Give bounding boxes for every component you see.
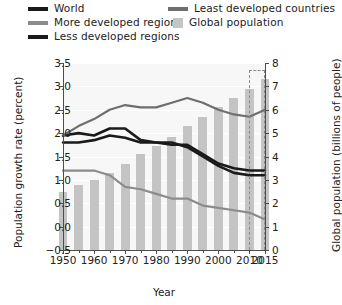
y-tick-label-left: 1.0	[54, 174, 71, 186]
y-tick-label-right: 2	[272, 197, 279, 209]
y-tick-label-left: 3.0	[54, 80, 71, 92]
projection-annotation	[63, 63, 265, 250]
legend-swatch-line-icon	[28, 35, 48, 39]
y-tick-label-left: 2.5	[54, 104, 71, 116]
legend-swatch-line-icon	[28, 21, 48, 25]
y-tick-label-left: 0.0	[54, 221, 71, 233]
x-tick-label-2015: 2015	[252, 254, 279, 266]
legend-swatch-line-icon	[28, 7, 48, 11]
y-axis-right-line	[265, 63, 266, 251]
y-axis-left-title: Population growth rate (percent)	[12, 77, 24, 248]
y-tick-label-right: 5	[272, 127, 279, 139]
y-tick-label-left: 1.5	[54, 151, 71, 163]
legend-swatch-square-icon	[173, 18, 183, 28]
y-tick-label-right: 1	[272, 221, 279, 233]
y-tick-label-left: 3.5	[54, 57, 71, 69]
legend-item-least-developed-countries: Least developed countries	[168, 3, 335, 14]
x-tick-label-1960: 1960	[81, 254, 108, 266]
x-tick-label-2000: 2000	[205, 254, 232, 266]
legend-item-less-developed-regions: Less developed regions	[28, 31, 180, 42]
projection-dashed-box	[249, 70, 265, 250]
x-tick-label-1950: 1950	[50, 254, 77, 266]
y-tick-label-right: 7	[272, 80, 279, 92]
legend-item-world: World	[28, 3, 85, 14]
legend-swatch-line-icon	[168, 7, 188, 11]
legend-label: Global population	[189, 17, 283, 28]
legend-label: More developed regions	[54, 17, 183, 28]
y-tick-label-right: 6	[272, 104, 279, 116]
y-tick-label-left: 2.0	[54, 127, 71, 139]
legend-label: Less developed regions	[54, 31, 180, 42]
y-tick-label-right: 4	[272, 151, 279, 163]
chart-legend: WorldMore developed regionsLess develope…	[0, 0, 340, 48]
x-tick-label-1980: 1980	[143, 254, 170, 266]
legend-item-global-population: Global population	[168, 17, 283, 28]
x-tick-label-1970: 1970	[112, 254, 139, 266]
legend-label: World	[54, 3, 85, 14]
x-axis-line	[63, 250, 266, 251]
plot-area	[63, 63, 265, 250]
y-tick-label-right: 3	[272, 174, 279, 186]
legend-label: Least developed countries	[194, 3, 335, 14]
x-axis-title: Year	[153, 286, 175, 298]
x-tick-label-1990: 1990	[174, 254, 201, 266]
y-tick-label-left: 0.5	[54, 197, 71, 209]
y-axis-right-title: Global population (billions of people)	[330, 58, 342, 252]
legend-item-more-developed-regions: More developed regions	[28, 17, 183, 28]
y-tick-label-right: 8	[272, 57, 279, 69]
